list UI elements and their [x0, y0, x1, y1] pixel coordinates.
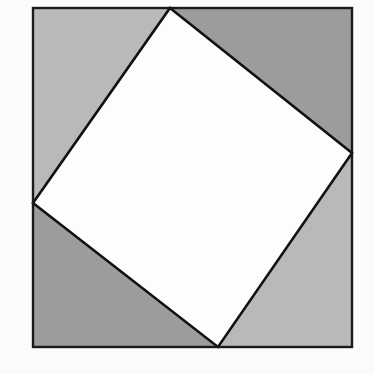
diagram-svg — [0, 0, 374, 374]
pythagorean-diagram — [0, 0, 374, 374]
